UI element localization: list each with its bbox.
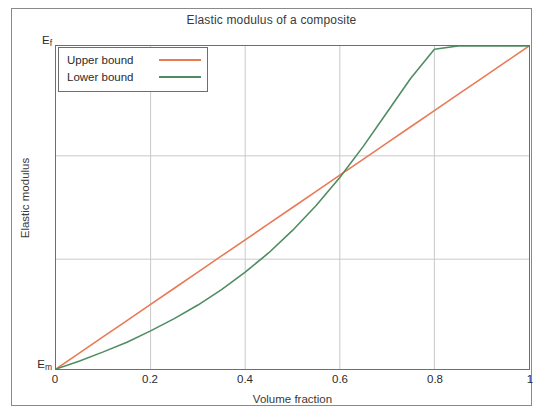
x-axis-label: Volume fraction (55, 393, 530, 405)
y-axis-label: Elastic modulus (19, 128, 31, 268)
series-lines (56, 46, 529, 369)
legend-label-upper-bound: Upper bound (67, 52, 134, 68)
x-axis-tick-0: 0 (35, 373, 75, 385)
x-axis-tick-5: 1 (510, 373, 539, 385)
y-tick-top-subscript: f (50, 38, 52, 48)
legend-entry-upper-bound: Upper bound (67, 52, 203, 68)
y-tick-top-base: E (42, 34, 50, 46)
chart-figure: Elastic modulus of a composite Ef Em 00.… (0, 0, 539, 414)
x-axis-tick-4: 0.8 (415, 373, 455, 385)
series-line-upper-bound (56, 46, 529, 369)
legend-swatch-upper-bound (159, 59, 201, 61)
legend-label-lower-bound: Lower bound (67, 69, 134, 85)
y-tick-bottom-subscript: m (45, 362, 52, 372)
legend-entry-lower-bound: Lower bound (67, 69, 203, 85)
y-axis-tick-top: Ef (28, 34, 52, 48)
plot-canvas (56, 46, 529, 369)
y-tick-bottom-base: E (37, 358, 45, 370)
legend-swatch-lower-bound (159, 76, 201, 78)
x-axis-tick-3: 0.6 (320, 373, 360, 385)
x-axis-tick-2: 0.4 (225, 373, 265, 385)
x-axis-tick-1: 0.2 (130, 373, 170, 385)
chart-title: Elastic modulus of a composite (11, 13, 532, 27)
plot-area (55, 45, 530, 370)
legend: Upper bound Lower bound (58, 47, 208, 92)
y-axis-tick-bottom: Em (20, 358, 52, 372)
